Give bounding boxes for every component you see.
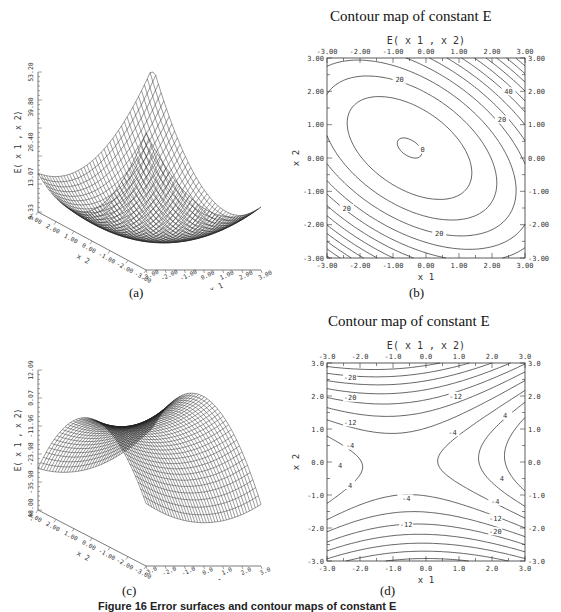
left-x2-tick-label: -3.00 (303, 255, 324, 263)
surface-mesh (38, 72, 261, 243)
contour-level-label: -12 (489, 515, 502, 523)
bottom-x1-tick-label: -1.00 (382, 262, 403, 270)
left-x2-tick-label: 3.00 (307, 55, 324, 63)
top-x1-tick-label: 1.00 (451, 48, 468, 56)
contour-level-label: 20 (435, 230, 443, 238)
z-tick-label: 53.20 (27, 62, 35, 82)
surface-axes: 0.3313.0726.4039.8053.20E( x 1 , x 2)3.0… (14, 62, 273, 290)
z-axis-label: E( x 1 , x 2) (14, 409, 23, 472)
right-x2-tick-label: 0.00 (528, 155, 545, 163)
top-x1-tick-label: 0.0 (420, 353, 433, 361)
surface-c-canvas: -48.00-35.98-23.98-11.960.0712.09E( x 1 … (0, 310, 280, 580)
x1-tick-label: 0.0 (201, 565, 214, 576)
z-tick-label: 26.40 (27, 132, 35, 152)
contour-plot-area: -28-20-12-12-4-44444-4-4-12-12-20 (327, 363, 525, 561)
surface-mesh (38, 393, 261, 523)
bottom-x1-tick-label: -2.00 (349, 262, 370, 270)
x2-tick-label: 1.00 (63, 232, 79, 245)
contour-level-label: 20 (498, 116, 506, 124)
contour-level-label: -20 (489, 528, 502, 536)
contour-level-label: -12 (449, 393, 462, 401)
x2-tick-label: 2.00 (45, 222, 61, 235)
right-x2-tick-label: -1.00 (528, 188, 549, 196)
bottom-x1-tick-label: 2.00 (484, 262, 501, 270)
x2-tick-label: -2.00 (116, 556, 136, 571)
contour-plot-d: -28-20-12-12-4-44444-4-4-12-12-20-3.0-3.… (280, 325, 561, 583)
panel-label-a: (a) (129, 285, 143, 301)
bottom-x1-tick-label: 0.0 (420, 565, 433, 573)
x2-tick-label: 0.00 (81, 538, 97, 551)
top-x1-tick-label: 2.0 (486, 353, 499, 361)
contour-level-label: -12 (400, 521, 413, 529)
left-x2-tick-label: 0.0 (311, 459, 324, 467)
left-x2-tick-label: -2.0 (307, 525, 324, 533)
right-x2-tick-label: 0.0 (528, 459, 541, 467)
contour-level-label: -20 (344, 394, 357, 402)
contour-level-label: -4 (448, 429, 456, 437)
figure-caption: Figure 16 Error surfaces and contour map… (98, 600, 396, 612)
panel-label-b: (b) (409, 285, 424, 301)
bottom-x1-tick-label: 1.0 (453, 565, 466, 573)
bottom-x1-tick-label: 3.00 (517, 262, 534, 270)
left-x2-tick-label: 2.0 (311, 393, 324, 401)
bottom-x1-tick-label: 2.0 (486, 565, 499, 573)
left-x2-tick-label: 1.0 (311, 426, 324, 434)
bottom-x1-tick-label: 1.00 (451, 262, 468, 270)
contour-level-label: -4 (346, 442, 354, 450)
bottom-x1-tick-label: -1.0 (385, 565, 402, 573)
bottom-x1-tick-label: -2.0 (352, 565, 369, 573)
right-x2-tick-label: 2.00 (528, 88, 545, 96)
left-x2-tick-label: 2.00 (307, 88, 324, 96)
z-tick-label: 13.07 (27, 167, 35, 187)
left-x2-tick-label: 3.0 (311, 360, 324, 368)
left-x2-tick-label: -2.00 (303, 221, 324, 229)
right-x2-tick-label: 3.00 (528, 55, 545, 63)
left-x2-tick-label: -3.0 (307, 558, 324, 566)
right-x2-tick-label: -2.0 (528, 525, 545, 533)
x1-axis-label: x 1 (418, 272, 434, 282)
x2-axis-label: x 2 (75, 549, 91, 563)
contour-level-label: 4 (338, 462, 342, 470)
x2-axis-label: x 2 (75, 252, 91, 266)
top-x1-tick-label: -2.0 (352, 353, 369, 361)
right-x2-tick-label: -3.0 (528, 558, 545, 566)
contour-plot-area: 02040202020 (327, 58, 525, 258)
x2-tick-label: 2.00 (45, 520, 61, 533)
bottom-x1-tick-label: -3.00 (316, 262, 337, 270)
right-x2-tick-label: 1.0 (528, 426, 541, 434)
x1-axis-label: x 1 (208, 281, 224, 290)
x1-tick-label: 1.0 (220, 565, 233, 576)
contour-d-canvas: -28-20-12-12-4-44444-4-4-12-12-20-3.0-3.… (280, 325, 561, 583)
surface-plot-c: -48.00-35.98-23.98-11.960.0712.09E( x 1 … (0, 310, 280, 580)
surface-axes: -48.00-35.98-23.98-11.960.0712.09E( x 1 … (14, 360, 272, 580)
left-x2-tick-label: 0.00 (307, 155, 324, 163)
right-x2-tick-label: -1.0 (528, 492, 545, 500)
contour-level-label: 4 (503, 412, 507, 420)
top-x1-tick-label: 0.00 (418, 48, 435, 56)
bottom-x1-tick-label: 3.0 (519, 565, 532, 573)
x2-tick-label: 3.00 (27, 212, 43, 225)
z-tick-label: 12.09 (27, 360, 35, 380)
contour-level-label: 40 (504, 88, 512, 96)
x2-tick-label: -1.00 (98, 547, 118, 562)
x2-tick-label: -2.00 (116, 260, 136, 275)
contour-b-canvas: 02040202020-3.00-3.00-2.00-2.00-1.00-1.0… (280, 20, 561, 285)
top-x1-tick-label: 2.00 (484, 48, 501, 56)
right-x2-tick-label: -3.00 (528, 255, 549, 263)
x2-tick-label: 1.00 (63, 529, 79, 542)
left-x2-tick-label: -1.00 (303, 188, 324, 196)
panel-label-c: (c) (122, 583, 136, 599)
surface-plot-a: 0.3313.0726.4039.8053.20E( x 1 , x 2)3.0… (0, 0, 280, 290)
x1-tick-label: 2.0 (239, 565, 252, 576)
top-x1-tick-label: -1.0 (385, 353, 402, 361)
x1-tick-label: 3.0 (259, 565, 272, 576)
z-axis-label: E( x 1 , x 2) (14, 111, 23, 174)
z-tick-label: -35.98 (27, 470, 35, 494)
x2-axis-label: x 2 (291, 150, 301, 166)
z-tick-label: -11.96 (27, 414, 35, 438)
contour-level-label: 4 (500, 475, 504, 483)
contour-level-label: -4 (402, 495, 410, 503)
left-x2-tick-label: -1.0 (307, 492, 324, 500)
right-x2-tick-label: 1.00 (528, 121, 545, 129)
surface-a-canvas: 0.3313.0726.4039.8053.20E( x 1 , x 2)3.0… (0, 0, 280, 290)
